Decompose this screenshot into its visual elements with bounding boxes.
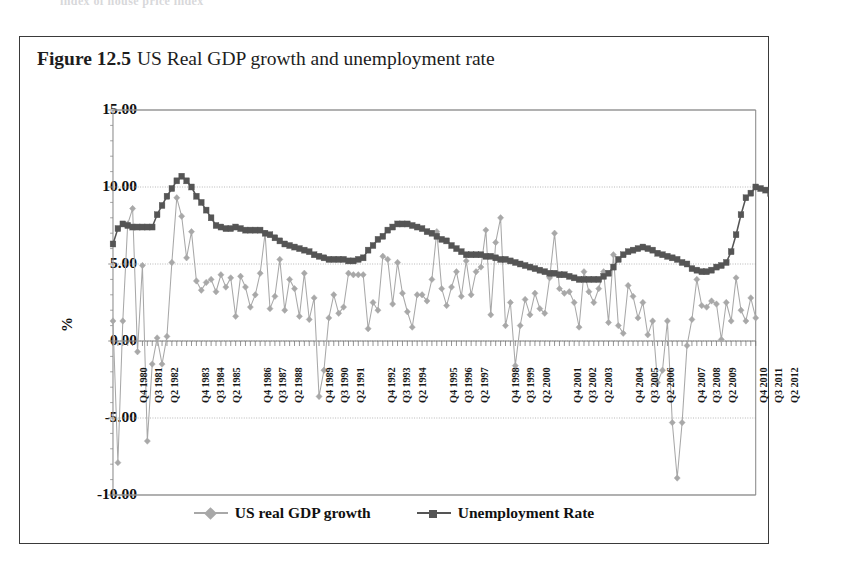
plot-area: % 15.0010.005.000.00-5.00-10.00 Q4 1980Q… bbox=[19, 36, 769, 544]
running-head-text: index of house price index bbox=[60, 0, 480, 8]
legend-marker-diamond-icon bbox=[194, 507, 228, 519]
chart-legend: US real GDP growth Unemployment Rate bbox=[19, 504, 769, 522]
chart-canvas bbox=[19, 36, 769, 544]
legend-label-unemployment: Unemployment Rate bbox=[458, 504, 594, 522]
x-tick-label: Q3 2011 bbox=[773, 368, 784, 403]
figure-page: index of house price index Figure 12.5US… bbox=[0, 0, 844, 582]
legend-label-gdp: US real GDP growth bbox=[235, 504, 371, 522]
x-tick-label: Q2 2012 bbox=[789, 367, 800, 403]
legend-item-unemployment[interactable]: Unemployment Rate bbox=[417, 504, 594, 522]
legend-item-gdp[interactable]: US real GDP growth bbox=[194, 504, 371, 522]
legend-marker-square-icon bbox=[417, 507, 451, 519]
